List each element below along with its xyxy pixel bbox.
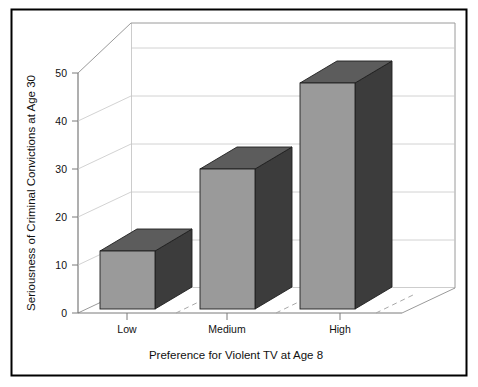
bar-high xyxy=(300,61,392,309)
bar-low-front-face xyxy=(100,251,155,309)
x-tick-label-high: High xyxy=(329,323,351,335)
bar-high-side-face xyxy=(355,61,392,309)
y-tick-label-40: 40 xyxy=(55,115,67,127)
x-axis-title: Preference for Violent TV at Age 8 xyxy=(149,349,323,361)
y-tick-label-30: 30 xyxy=(55,163,67,175)
y-tick-label-0: 0 xyxy=(61,307,67,319)
bar-medium-side-face xyxy=(255,147,292,309)
y-tick-label-20: 20 xyxy=(55,211,67,223)
bar-chart-svg: 0 10 20 30 40 50 xyxy=(0,0,478,387)
y-tick-label-50: 50 xyxy=(55,67,67,79)
x-tick-label-medium: Medium xyxy=(208,323,246,335)
x-tick-label-low: Low xyxy=(117,323,137,335)
y-tick-label-10: 10 xyxy=(55,259,67,271)
y-axis-title: Seriousness of Criminal Convictions at A… xyxy=(25,75,37,311)
chart-figure: 0 10 20 30 40 50 xyxy=(0,0,478,387)
bar-high-front-face xyxy=(300,83,355,309)
bar-medium-front-face xyxy=(200,169,255,309)
bar-medium xyxy=(200,147,292,309)
